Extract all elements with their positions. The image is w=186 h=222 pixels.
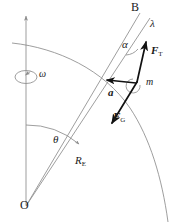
radius-line-origin-to-mass (26, 18, 150, 206)
earth-radius-subscript: E (82, 160, 86, 168)
acceleration-label: a (108, 87, 114, 98)
point-label-b: B (131, 1, 139, 13)
physics-diagram: B O λ α θ ω m a FT FG RE (0, 0, 186, 222)
tension-force-subscript: T (158, 50, 162, 58)
acceleration-vector (107, 80, 136, 83)
angle-label-omega: ω (39, 69, 46, 79)
gravity-force-label: FG (113, 111, 125, 122)
gravity-force-subscript: G (120, 116, 125, 124)
earth-surface-arc (12, 43, 168, 222)
point-label-origin: O (20, 199, 29, 211)
angle-label-alpha: α (122, 39, 128, 50)
tension-force-vector (137, 42, 146, 82)
tension-force-label: FT (151, 45, 163, 56)
diagram-canvas (0, 0, 186, 222)
angle-label-theta: θ (53, 134, 58, 145)
angle-label-lambda: λ (150, 18, 155, 29)
earth-radius-symbol: R (75, 154, 82, 166)
earth-radius-label: RE (75, 155, 86, 166)
mass-label-m: m (146, 77, 153, 87)
